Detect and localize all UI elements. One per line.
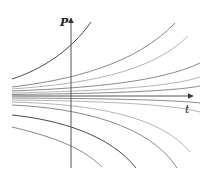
p-axis-label: P [60, 17, 68, 28]
solution-curve-above [12, 86, 200, 95]
curves-below-axis [12, 98, 200, 168]
solution-curve-below [12, 127, 102, 167]
solution-curve-above [12, 22, 91, 79]
curves-above-axis [12, 22, 200, 95]
solution-curve-below [12, 100, 200, 112]
solution-curve-below [12, 102, 190, 152]
solution-curve-above [12, 23, 175, 87]
t-axis-label: t [185, 104, 189, 115]
solution-curves-diagram [0, 0, 200, 181]
solution-curve-above [12, 36, 188, 89]
solution-curve-below [12, 115, 136, 168]
